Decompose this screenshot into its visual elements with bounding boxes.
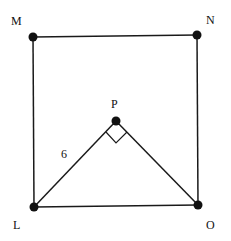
right-angle-marker: [106, 132, 127, 143]
point-L: [30, 203, 39, 212]
geometry-diagram: M N P 6 L O: [0, 0, 231, 241]
label-L: L: [13, 218, 20, 232]
segment-MN: [33, 35, 197, 37]
point-P: [112, 117, 121, 126]
segment-LM: [33, 37, 34, 207]
point-N: [193, 31, 202, 40]
segment-NO: [197, 35, 198, 205]
label-N: N: [206, 13, 215, 27]
label-O: O: [206, 218, 215, 232]
label-M: M: [11, 14, 22, 28]
segment-OL: [34, 205, 198, 207]
point-O: [194, 201, 203, 210]
segment-PO: [116, 121, 198, 205]
label-P: P: [111, 97, 118, 111]
label-LP-length: 6: [61, 147, 67, 161]
segment-LP: [34, 121, 116, 207]
point-M: [29, 33, 38, 42]
